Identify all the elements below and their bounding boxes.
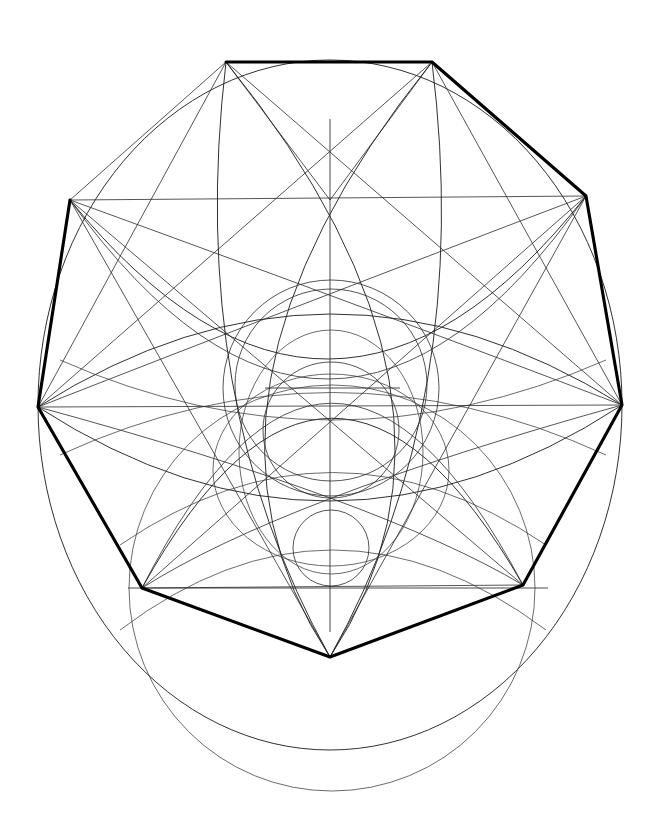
figure-background xyxy=(0,0,664,835)
drawing-canvas xyxy=(0,0,664,835)
geometric-construction-figure xyxy=(0,0,664,835)
